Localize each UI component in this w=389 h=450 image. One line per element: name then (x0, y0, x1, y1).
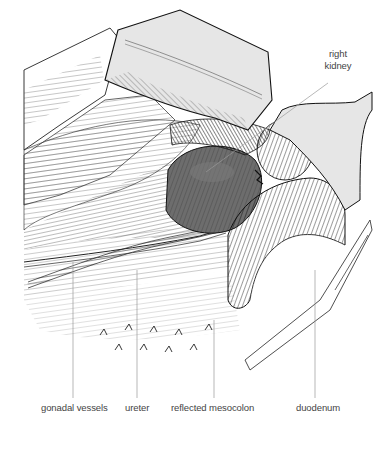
label-right-kidney-line1: right (315, 48, 361, 60)
label-ureter: ureter (125, 402, 149, 414)
label-right-kidney: right kidney (315, 48, 361, 72)
label-duodenum: duodenum (296, 402, 340, 414)
label-gonadal-vessels: gonadal vessels (41, 402, 108, 414)
posterior-wall (24, 225, 240, 352)
label-right-kidney-line2: kidney (315, 60, 361, 72)
label-reflected-mesocolon: reflected mesocolon (171, 402, 254, 414)
